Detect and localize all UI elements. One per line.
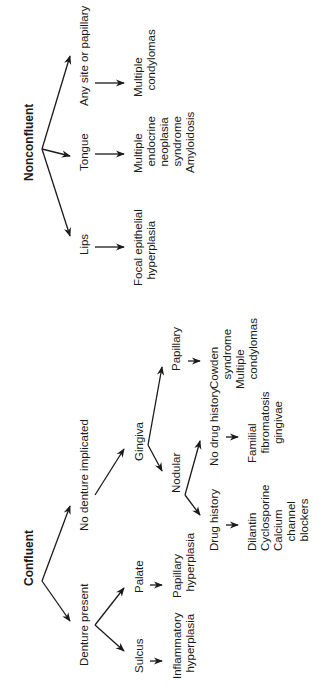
- cowden-condylomas-result: Cowden syndrome Multiple condylomas: [208, 318, 260, 389]
- papillary-hyperplasia-result: Papillary hyperplasia: [171, 533, 197, 598]
- differential-diagnosis-flowchart: Confluent Denture present No denture imp…: [0, 0, 323, 691]
- nonconfluent-title: Nonconfluent: [23, 104, 36, 181]
- no-denture-implicated-node: No denture implicated: [78, 419, 91, 531]
- focal-epithelial-hyperplasia-result: Focal epithelial hyperplasia: [132, 209, 158, 286]
- nodular-node: Nodular: [170, 453, 183, 493]
- papillary-node: Papillary: [170, 327, 183, 371]
- lips-node: Lips: [78, 234, 91, 255]
- confluent-title: Confluent: [23, 530, 36, 586]
- any-site-node: Any site or papillary: [78, 6, 91, 106]
- palate-node: Palate: [133, 560, 146, 593]
- sulcus-node: Sulcus: [133, 638, 146, 673]
- denture-present-node: Denture present: [78, 584, 91, 666]
- tongue-node: Tongue: [78, 133, 91, 171]
- familial-fibromatosis-result: Familial fibromatosis gingivae: [246, 391, 285, 463]
- inflammatory-hyperplasia-result: Inflammatory hyperplasia: [171, 613, 197, 679]
- drug-induced-result: Dilantin Cyclosporine Calcium channel bl…: [246, 485, 311, 551]
- drug-history-node: Drug history: [208, 489, 221, 551]
- connector-arrows: [0, 0, 323, 691]
- gingiva-node: Gingiva: [133, 422, 146, 461]
- no-drug-history-node: No drug history: [208, 388, 221, 466]
- men-amyloidosis-result: Multiple endocrine neoplasia syndrome Am…: [132, 112, 197, 173]
- multiple-condylomas-result: Multiple condylomas: [132, 29, 158, 97]
